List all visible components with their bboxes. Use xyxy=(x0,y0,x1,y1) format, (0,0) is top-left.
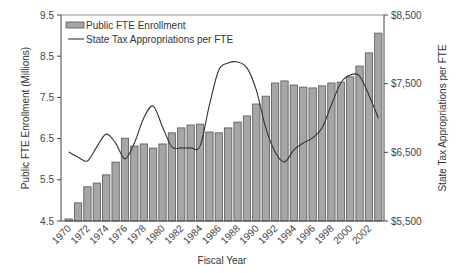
y-tick-label: 4.5 xyxy=(40,216,54,227)
legend-label-appropriations: State Tax Appropriations per FTE xyxy=(86,34,233,45)
enrollment-bar xyxy=(206,132,213,221)
enrollment-bar xyxy=(84,187,91,221)
x-tick-label: 1998 xyxy=(312,222,336,246)
chart: 4.55.56.57.58.59.5$5,500$6,500$7,500$8,5… xyxy=(0,0,462,273)
enrollment-bar xyxy=(225,128,232,221)
enrollment-bar xyxy=(121,138,128,221)
enrollment-bar xyxy=(149,148,156,221)
x-tick-label: 1980 xyxy=(143,222,167,246)
x-tick-label: 1984 xyxy=(181,222,205,246)
x-tick-label: 1974 xyxy=(87,222,111,246)
y2-tick-label: $6,500 xyxy=(391,147,422,158)
enrollment-bar xyxy=(103,175,110,221)
y-tick-label: 6.5 xyxy=(40,133,54,144)
legend: Public FTE EnrollmentState Tax Appropria… xyxy=(66,20,233,45)
y2-tick-label: $7,500 xyxy=(391,78,422,89)
enrollment-bars xyxy=(65,33,382,221)
enrollment-bar xyxy=(215,133,222,221)
enrollment-bar xyxy=(300,87,307,221)
y2-axis-title: State Tax Appropriations per FTE xyxy=(437,44,448,191)
enrollment-bar xyxy=(131,146,138,221)
x-axis-title: Fiscal Year xyxy=(198,255,248,266)
enrollment-bar xyxy=(356,66,363,221)
x-tick-label: 1972 xyxy=(68,222,92,246)
enrollment-bar xyxy=(253,104,260,221)
x-tick-label: 1994 xyxy=(275,222,299,246)
y-axis-title: Public FTE Enrollment (Millions) xyxy=(20,47,31,189)
enrollment-bar xyxy=(243,116,250,221)
enrollment-bar xyxy=(112,162,119,221)
enrollment-bar xyxy=(159,144,166,221)
enrollment-bar xyxy=(365,53,372,221)
enrollment-bar xyxy=(318,86,325,221)
enrollment-bar xyxy=(187,125,194,221)
y-tick-label: 7.5 xyxy=(40,92,54,103)
x-tick-label: 2000 xyxy=(331,222,355,246)
enrollment-bar xyxy=(178,128,185,221)
y2-tick-label: $8,500 xyxy=(391,10,422,21)
y-tick-label: 5.5 xyxy=(40,174,54,185)
enrollment-bar xyxy=(140,144,147,221)
enrollment-bar xyxy=(337,82,344,221)
x-tick-label: 2002 xyxy=(350,222,374,246)
x-tick-label: 1976 xyxy=(106,222,130,246)
enrollment-bar xyxy=(93,183,100,221)
x-tick-label: 1996 xyxy=(294,222,318,246)
enrollment-bar xyxy=(234,122,241,221)
enrollment-bar xyxy=(309,88,316,221)
x-tick-label: 1982 xyxy=(162,222,186,246)
x-tick-label: 1988 xyxy=(218,222,242,246)
x-tick-label: 1978 xyxy=(125,222,149,246)
enrollment-bar xyxy=(74,203,81,221)
enrollment-bar xyxy=(375,33,382,221)
enrollment-bar xyxy=(281,81,288,221)
legend-label-enrollment: Public FTE Enrollment xyxy=(86,20,186,31)
y-tick-label: 8.5 xyxy=(40,51,54,62)
x-tick-label: 1986 xyxy=(200,222,224,246)
enrollment-bar xyxy=(262,96,269,221)
x-tick-label: 1990 xyxy=(237,222,261,246)
y-tick-label: 9.5 xyxy=(40,10,54,21)
legend-bar-swatch-icon xyxy=(66,22,84,28)
y2-tick-label: $5,500 xyxy=(391,216,422,227)
x-tick-label: 1992 xyxy=(256,222,280,246)
enrollment-bar xyxy=(347,77,354,221)
